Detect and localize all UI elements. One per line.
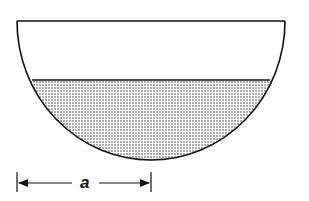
bowl-diagram [0,0,309,201]
arrowhead-left-icon [18,179,28,187]
arrowhead-right-icon [140,179,150,187]
radius-label: a [80,174,89,191]
